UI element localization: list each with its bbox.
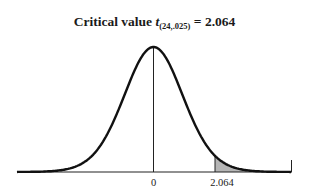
tick-label-zero: 0 [151, 177, 156, 188]
tick-label-critical: 2.064 [210, 177, 234, 188]
t-distribution-plot: 0 2.064 [0, 0, 309, 195]
